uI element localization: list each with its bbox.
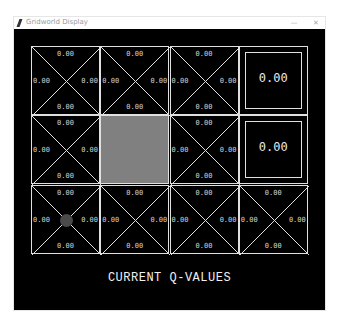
- q-value-east: 0.00: [289, 216, 306, 224]
- q-value-south: 0.00: [32, 242, 99, 250]
- q-value-east: 0.00: [81, 77, 98, 85]
- q-cell: 0.000.000.000.00: [31, 46, 100, 115]
- q-value-north: 0.00: [171, 189, 238, 197]
- caption: CURRENT Q-VALUES: [14, 271, 325, 285]
- q-value-south: 0.00: [32, 103, 99, 111]
- q-cell: 0.000.000.000.00: [170, 46, 239, 115]
- q-cell: 0.000.000.000.00: [239, 185, 308, 254]
- minimize-button[interactable]: —: [287, 17, 301, 29]
- q-value-west: 0.00: [172, 77, 189, 85]
- q-value-west: 0.00: [172, 146, 189, 154]
- q-value-east: 0.00: [220, 216, 237, 224]
- q-value-north: 0.00: [32, 50, 99, 58]
- q-value-east: 0.00: [150, 216, 167, 224]
- q-value-east: 0.00: [220, 146, 237, 154]
- q-value-south: 0.00: [171, 103, 238, 111]
- q-value-west: 0.00: [33, 216, 50, 224]
- q-value-west: 0.00: [172, 216, 189, 224]
- q-value-north: 0.00: [101, 189, 168, 197]
- gridworld-window: Gridworld Display — ✕ 0.000.000.000.000.…: [13, 16, 326, 311]
- q-value-west: 0.00: [102, 77, 119, 85]
- q-cell: 0.000.000.000.00: [31, 115, 100, 184]
- agent-marker: [60, 214, 73, 227]
- q-value-east: 0.00: [220, 77, 237, 85]
- wall-cell: [100, 115, 169, 184]
- q-value-north: 0.00: [171, 119, 238, 127]
- q-value-grid: 0.000.000.000.000.000.000.000.000.000.00…: [31, 46, 308, 254]
- window-title: Gridworld Display: [26, 18, 88, 26]
- terminal-cell: 0.00: [239, 115, 308, 184]
- close-button[interactable]: ✕: [309, 17, 323, 29]
- q-value-east: 0.00: [150, 77, 167, 85]
- q-value-south: 0.00: [240, 242, 307, 250]
- q-value-south: 0.00: [32, 172, 99, 180]
- q-value-north: 0.00: [32, 119, 99, 127]
- q-value-north: 0.00: [101, 50, 168, 58]
- q-value-north: 0.00: [171, 50, 238, 58]
- q-value-west: 0.00: [33, 146, 50, 154]
- q-value-east: 0.00: [81, 146, 98, 154]
- q-cell: 0.000.000.000.00: [170, 115, 239, 184]
- q-value-north: 0.00: [32, 189, 99, 197]
- q-value-south: 0.00: [101, 103, 168, 111]
- q-value-south: 0.00: [101, 242, 168, 250]
- q-value-east: 0.00: [81, 216, 98, 224]
- q-cell: 0.000.000.000.00: [31, 185, 100, 254]
- app-feather-icon: [17, 19, 23, 27]
- q-value-west: 0.00: [33, 77, 50, 85]
- q-cell: 0.000.000.000.00: [170, 185, 239, 254]
- terminal-cell: 0.00: [239, 46, 308, 115]
- q-cell: 0.000.000.000.00: [100, 46, 169, 115]
- q-value-west: 0.00: [102, 216, 119, 224]
- q-value-north: 0.00: [240, 189, 307, 197]
- gridworld-canvas: 0.000.000.000.000.000.000.000.000.000.00…: [14, 29, 325, 310]
- q-value-south: 0.00: [171, 172, 238, 180]
- q-value-west: 0.00: [241, 216, 258, 224]
- terminal-value: 0.00: [240, 71, 307, 85]
- q-cell: 0.000.000.000.00: [100, 185, 169, 254]
- q-value-south: 0.00: [171, 242, 238, 250]
- title-bar[interactable]: Gridworld Display — ✕: [14, 17, 325, 29]
- terminal-value: 0.00: [240, 140, 307, 154]
